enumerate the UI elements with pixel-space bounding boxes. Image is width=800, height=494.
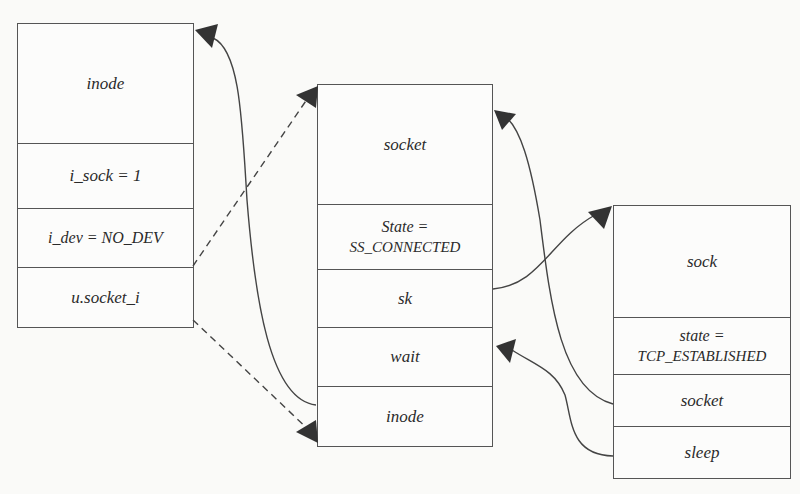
dashed-link-to-socket-inode xyxy=(193,320,311,432)
arrowhead-socket-top-right xyxy=(494,110,516,130)
link-sleep-to-wait xyxy=(512,350,613,456)
arrowhead-inode-top xyxy=(195,24,218,48)
dashed-link-to-socket xyxy=(193,92,312,266)
link-sock-socket-to-socket xyxy=(507,118,613,404)
link-socket-inode-to-inode xyxy=(213,38,316,405)
arrowhead-socket-top xyxy=(296,86,318,108)
arrowhead-socket-inode xyxy=(296,420,318,443)
pointer-links xyxy=(0,0,800,494)
arrowhead-wait xyxy=(496,339,516,363)
